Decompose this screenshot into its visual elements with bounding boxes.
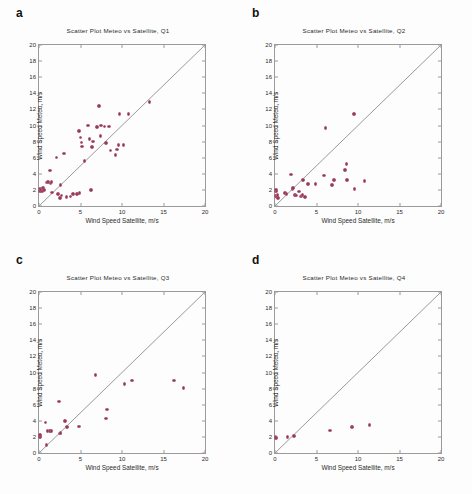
plot-area-a: 0246810121416182005101520Wind Speed Sate… — [38, 44, 206, 207]
x-tick-label: 15 — [160, 209, 167, 215]
scatter-point — [104, 417, 108, 421]
x-tick-label: 15 — [160, 456, 167, 462]
panel-title-d: Scatter Plot Meteo vs Satellite, Q4 — [236, 274, 472, 281]
scatter-point — [50, 180, 54, 184]
x-tick-label: 20 — [438, 209, 445, 215]
scatter-point — [285, 192, 289, 196]
x-tick-label: 5 — [315, 209, 318, 215]
scatter-point — [345, 178, 349, 182]
scatter-point — [352, 112, 356, 116]
scatter-point — [89, 188, 93, 192]
scatter-point — [105, 408, 109, 412]
y-axis-label-c: Wind Speed Meteo, m/s — [36, 338, 43, 406]
plot-area-b: 0246810121416182005101520Wind Speed Sate… — [274, 44, 442, 207]
scatter-point — [104, 141, 108, 145]
scatter-point — [148, 100, 152, 104]
y-tick-label: 20 — [265, 42, 272, 48]
scatter-points-a — [39, 45, 205, 206]
y-tick-label: 4 — [269, 418, 272, 424]
x-tick-label: 10 — [355, 456, 362, 462]
panel-letter-d: d — [252, 253, 259, 267]
scatter-point — [306, 182, 310, 186]
scatter-point — [50, 191, 54, 195]
scatter-point — [345, 162, 349, 166]
scatter-point — [343, 168, 347, 172]
scatter-point — [48, 169, 52, 173]
y-tick-label: 18 — [29, 58, 36, 64]
scatter-points-d — [275, 292, 441, 453]
scatter-point — [115, 148, 119, 152]
panel-letter-c: c — [16, 253, 23, 267]
x-tick-label: 15 — [396, 456, 403, 462]
scatter-point — [91, 140, 95, 144]
scatter-point — [118, 112, 122, 116]
x-tick-label: 15 — [396, 209, 403, 215]
four-panel-scatter-figure: aScatter Plot Meteo vs Satellite, Q10246… — [0, 0, 472, 494]
scatter-point — [94, 373, 98, 377]
panel-title-b: Scatter Plot Meteo vs Satellite, Q2 — [236, 27, 472, 34]
y-tick-label: 2 — [33, 187, 36, 193]
x-axis-label-c: Wind Speed Satellite, m/s — [39, 464, 205, 471]
y-axis-label-a: Wind Speed Meteo, m/s — [36, 91, 43, 159]
scatter-point — [122, 143, 126, 147]
scatter-point — [77, 425, 81, 429]
scatter-point — [71, 192, 75, 196]
scatter-points-b — [275, 45, 441, 206]
y-axis-label-d: Wind Speed Meteo, m/s — [272, 338, 279, 406]
scatter-point — [55, 156, 59, 160]
scatter-point — [50, 429, 54, 433]
x-tick-label: 0 — [37, 456, 40, 462]
y-axis-label-b: Wind Speed Meteo, m/s — [272, 91, 279, 159]
scatter-point — [314, 182, 318, 186]
scatter-point — [99, 134, 103, 138]
scatter-point — [294, 194, 298, 198]
scatter-point — [322, 174, 326, 178]
scatter-point — [292, 434, 296, 438]
y-tick-label: 4 — [33, 418, 36, 424]
scatter-point — [123, 382, 127, 386]
y-tick-label: 18 — [265, 58, 272, 64]
y-tick-label: 16 — [29, 321, 36, 327]
x-tick-label: 10 — [119, 456, 126, 462]
scatter-point — [77, 129, 81, 133]
scatter-point — [59, 183, 63, 187]
scatter-points-c — [39, 292, 205, 453]
scatter-point — [45, 443, 49, 447]
scatter-point — [291, 186, 295, 190]
scatter-point — [130, 379, 134, 383]
scatter-point — [276, 196, 280, 200]
panel-letter-a: a — [16, 6, 23, 20]
scatter-point — [59, 431, 63, 435]
scatter-point — [363, 179, 367, 183]
scatter-point — [353, 187, 357, 191]
scatter-point — [182, 386, 186, 390]
scatter-point — [107, 125, 111, 129]
scatter-point — [60, 194, 64, 198]
y-tick-label: 2 — [269, 187, 272, 193]
scatter-point — [303, 195, 307, 199]
panel-d: dScatter Plot Meteo vs Satellite, Q40246… — [236, 247, 472, 494]
plot-area-d: 0246810121416182005101520Wind Speed Sate… — [274, 291, 442, 454]
scatter-point — [172, 379, 176, 383]
x-axis-label-a: Wind Speed Satellite, m/s — [39, 217, 205, 224]
y-tick-label: 18 — [265, 305, 272, 311]
panel-title-c: Scatter Plot Meteo vs Satellite, Q3 — [0, 274, 236, 281]
scatter-point — [65, 425, 69, 429]
scatter-point — [80, 145, 84, 149]
y-tick-label: 20 — [29, 289, 36, 295]
y-tick-label: 16 — [265, 321, 272, 327]
scatter-point — [368, 423, 372, 427]
scatter-point — [289, 173, 293, 177]
scatter-point — [57, 400, 61, 404]
scatter-point — [95, 125, 99, 129]
scatter-point — [86, 124, 90, 128]
x-tick-label: 20 — [202, 456, 209, 462]
x-tick-label: 0 — [273, 209, 276, 215]
y-tick-label: 16 — [29, 74, 36, 80]
scatter-point — [330, 183, 334, 187]
scatter-point — [78, 191, 82, 195]
scatter-point — [65, 195, 69, 199]
scatter-point — [63, 419, 67, 423]
scatter-point — [90, 145, 94, 149]
y-tick-label: 0 — [33, 203, 36, 209]
